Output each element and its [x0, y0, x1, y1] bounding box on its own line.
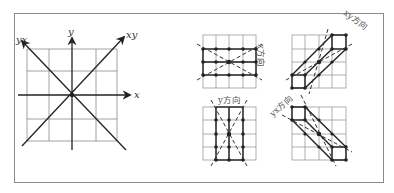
xy-axis-label: xy — [126, 29, 138, 40]
xy-axis-arrow — [22, 37, 124, 146]
axes-diagram: x y xy yx — [15, 26, 140, 150]
panel-xy-direction: xy方向 — [286, 8, 370, 94]
yx-axis-label: yx — [15, 34, 28, 45]
x-direction-label: x方向 — [256, 44, 266, 67]
x-axis-label: x — [134, 89, 140, 100]
origin-point — [70, 93, 74, 97]
y-direction-label: y方向 — [217, 95, 241, 105]
panel-y-direction: y方向 — [203, 95, 256, 166]
panel-x-direction: x方向 — [197, 35, 266, 88]
direction-diagram: x y xy yx x方向 — [0, 0, 394, 193]
y-axis-label: y — [67, 26, 74, 37]
panel-yx-direction: yx方向 — [267, 93, 352, 166]
xy-direction-label: xy方向 — [342, 8, 370, 33]
